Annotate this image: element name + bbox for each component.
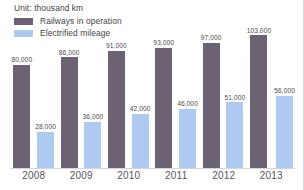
bar-column: 93,000 bbox=[153, 0, 174, 168]
chart-legend: Unit: thousand km Railways in operation … bbox=[14, 3, 122, 40]
unit-label: Unit: thousand km bbox=[14, 3, 122, 13]
bar-group: 97,00051,000 bbox=[199, 0, 246, 168]
bar-chart: Unit: thousand km Railways in operation … bbox=[0, 0, 304, 190]
bar-railways-in-operation bbox=[250, 35, 267, 168]
x-axis-tick-2012: 2012 bbox=[200, 170, 248, 181]
bar-value-label: 97,000 bbox=[201, 34, 222, 41]
x-axis-tick-2009: 2009 bbox=[58, 170, 106, 181]
legend-item-electrified-mileage: Electrified mileage bbox=[14, 28, 122, 38]
bar-electrified-mileage bbox=[132, 114, 149, 168]
bar-value-label: 46,000 bbox=[177, 100, 198, 107]
x-axis-tick-2008: 2008 bbox=[10, 170, 58, 181]
x-axis-tick-2010: 2010 bbox=[105, 170, 153, 181]
bar-value-label: 42,000 bbox=[130, 105, 151, 112]
x-axis-tick-2013: 2013 bbox=[248, 170, 296, 181]
bar-value-label: 103,000 bbox=[247, 27, 272, 34]
bar-railways-in-operation bbox=[108, 51, 125, 169]
bar-group: 103,00056,000 bbox=[247, 0, 295, 168]
bar-group: 93,00046,000 bbox=[152, 0, 199, 168]
bar-value-label: 56,000 bbox=[274, 87, 295, 94]
x-axis-labels: 200820092010201120122013 bbox=[10, 170, 295, 181]
bar-value-label: 86,000 bbox=[59, 49, 80, 56]
bar-value-label: 91,000 bbox=[106, 42, 127, 49]
bar-value-label: 51,000 bbox=[224, 94, 245, 101]
x-axis-tick-2011: 2011 bbox=[153, 170, 201, 181]
bar-railways-in-operation bbox=[203, 43, 220, 168]
bar-column: 51,000 bbox=[224, 0, 245, 168]
bar-railways-in-operation bbox=[61, 57, 78, 168]
legend-item-railways-in-operation: Railways in operation bbox=[14, 16, 122, 26]
bar-value-label: 93,000 bbox=[153, 39, 174, 46]
bar-value-label: 80,000 bbox=[11, 56, 32, 63]
bar-value-label: 28,000 bbox=[35, 123, 56, 130]
bar-column: 103,000 bbox=[247, 0, 272, 168]
legend-label-railways-in-operation: Railways in operation bbox=[40, 16, 122, 26]
bar-electrified-mileage bbox=[37, 132, 54, 168]
legend-swatch-electrified-mileage bbox=[14, 30, 33, 37]
bar-column: 46,000 bbox=[177, 0, 198, 168]
bar-column: 56,000 bbox=[274, 0, 295, 168]
bar-electrified-mileage bbox=[276, 96, 293, 168]
bar-railways-in-operation bbox=[13, 65, 30, 168]
bar-electrified-mileage bbox=[226, 102, 243, 168]
bar-column: 42,000 bbox=[130, 0, 151, 168]
x-axis-line bbox=[10, 168, 295, 169]
bar-column: 97,000 bbox=[201, 0, 222, 168]
bar-electrified-mileage bbox=[84, 122, 101, 169]
legend-swatch-railways-in-operation bbox=[14, 18, 33, 25]
bar-electrified-mileage bbox=[179, 109, 196, 168]
bar-railways-in-operation bbox=[155, 48, 172, 168]
legend-label-electrified-mileage: Electrified mileage bbox=[40, 28, 110, 38]
bar-value-label: 36,000 bbox=[82, 113, 103, 120]
